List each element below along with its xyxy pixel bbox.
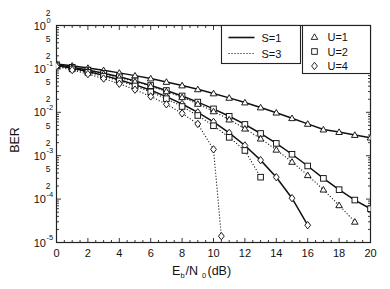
y-minor-tick-label-5: 5 bbox=[46, 121, 51, 131]
marker-square bbox=[352, 197, 358, 203]
x-tick-label-8: 8 bbox=[179, 247, 185, 259]
marker-square bbox=[274, 141, 280, 147]
x-tick-label-16: 16 bbox=[302, 247, 314, 259]
y-minor-tick-label-5: 5 bbox=[46, 34, 51, 44]
x-tick-label-2: 2 bbox=[85, 247, 91, 259]
marker-square bbox=[211, 123, 217, 129]
x-axis-label-lead: E bbox=[172, 264, 180, 278]
series-line bbox=[57, 65, 308, 225]
marker-square bbox=[321, 176, 327, 182]
y-minor-tick-label-2: 2 bbox=[46, 181, 51, 191]
marker-square bbox=[368, 206, 374, 212]
ber-chart-figure: 0246810121416182010010-110-210-310-410-5… bbox=[0, 0, 390, 289]
x-axis-label-unit: (dB) bbox=[208, 264, 232, 278]
marker-triangle bbox=[289, 159, 296, 165]
x-tick-label-4: 4 bbox=[116, 247, 122, 259]
marker-square bbox=[305, 163, 311, 169]
marker-square bbox=[312, 49, 318, 55]
y-tick-base: 10 bbox=[34, 20, 46, 32]
legend-label-U4: U=4 bbox=[328, 60, 349, 72]
y-minor-tick-label-2: 2 bbox=[46, 51, 51, 61]
y-tick-label-10^-2: 10-2 bbox=[34, 103, 53, 119]
y-tick-label-10^-5: 10-5 bbox=[34, 233, 53, 249]
marker-square bbox=[336, 187, 342, 193]
y-minor-tick-label-5: 5 bbox=[46, 77, 51, 87]
marker-diamond bbox=[218, 232, 224, 239]
x-tick-label-10: 10 bbox=[207, 247, 219, 259]
marker-triangle bbox=[320, 186, 327, 192]
legend-label-S1: S=1 bbox=[262, 32, 282, 44]
series-s3u1 bbox=[53, 62, 358, 224]
x-axis-label: Eb/N0 (dB) bbox=[172, 264, 231, 281]
y-tick-label-10^-4: 10-4 bbox=[34, 190, 53, 206]
y-tick-base: 10 bbox=[34, 150, 46, 162]
marker-square bbox=[242, 148, 248, 154]
x-tick-label-18: 18 bbox=[333, 247, 345, 259]
legend: S=1S=3U=1U=2U=4 bbox=[222, 26, 371, 74]
x-tick-label-6: 6 bbox=[148, 247, 154, 259]
x-axis-label-sub-0: 0 bbox=[202, 271, 206, 280]
marker-square bbox=[195, 113, 201, 119]
marker-triangle bbox=[304, 172, 311, 178]
marker-square bbox=[179, 104, 185, 110]
y-tick-base: 10 bbox=[34, 193, 46, 205]
y-tick-base: 10 bbox=[34, 237, 46, 249]
marker-triangle bbox=[352, 219, 359, 225]
marker-square bbox=[258, 174, 264, 180]
data-series-group bbox=[53, 61, 374, 240]
marker-triangle bbox=[273, 147, 280, 153]
y-tick-label-10^-1: 10-1 bbox=[34, 59, 53, 75]
marker-square bbox=[289, 151, 295, 157]
y-minor-tick-label-5: 5 bbox=[46, 164, 51, 174]
x-tick-label-0: 0 bbox=[53, 247, 59, 259]
series-line bbox=[57, 65, 355, 222]
legend-label-S3: S=3 bbox=[262, 48, 282, 60]
y-tick-label-10^-3: 10-3 bbox=[34, 146, 53, 162]
x-tick-label-20: 20 bbox=[364, 247, 376, 259]
marker-diamond bbox=[179, 110, 185, 117]
legend-label-U1: U=1 bbox=[328, 31, 349, 43]
y-tick-base: 10 bbox=[34, 63, 46, 75]
y-minor-tick-label-2: 2 bbox=[46, 94, 51, 104]
y-axis-label: BER bbox=[8, 127, 22, 153]
ber-vs-ebno-plot: 0246810121416182010010-110-210-310-410-5… bbox=[0, 0, 390, 289]
marker-square bbox=[226, 135, 232, 141]
x-tick-label-14: 14 bbox=[270, 247, 282, 259]
legend-label-U2: U=2 bbox=[328, 46, 349, 58]
y-tick-exponent: -5 bbox=[47, 233, 54, 242]
x-axis-label-slash-n: /N bbox=[186, 264, 199, 278]
y-minor-tick-label-2: 2 bbox=[46, 8, 51, 18]
x-tick-label-12: 12 bbox=[239, 247, 251, 259]
y-tick-label-10^0: 100 bbox=[34, 16, 51, 32]
y-tick-base: 10 bbox=[34, 106, 46, 118]
y-minor-tick-label-2: 2 bbox=[46, 138, 51, 148]
x-axis-label-sub-b: b bbox=[181, 271, 185, 280]
